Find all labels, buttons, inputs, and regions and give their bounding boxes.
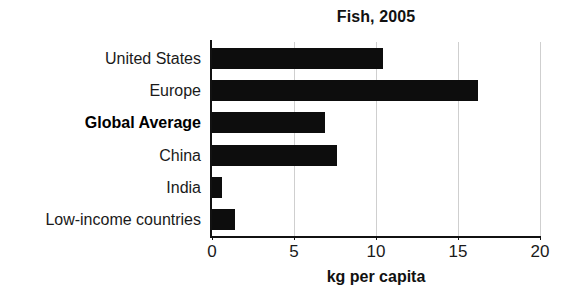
x-tick-mark-15 xyxy=(458,236,459,240)
x-axis-tick-labels: 05101520 xyxy=(0,242,570,264)
x-tick-mark-10 xyxy=(376,236,377,240)
y-label-europe: Europe xyxy=(149,80,201,101)
y-label-china: China xyxy=(159,145,201,166)
bar-low-income-countries xyxy=(212,209,235,230)
bar-row xyxy=(212,177,540,198)
y-label-india: India xyxy=(166,177,201,198)
x-tick-label-10: 10 xyxy=(356,242,396,262)
bar-row xyxy=(212,209,540,230)
bar-global-average xyxy=(212,112,325,133)
bar-europe xyxy=(212,80,478,101)
x-tick-label-15: 15 xyxy=(438,242,478,262)
gridline-5 xyxy=(294,42,295,236)
bar-row xyxy=(212,80,540,101)
bar-chart-figure: Fish, 2005 United StatesEuropeGlobal Ave… xyxy=(0,0,570,299)
plot-area xyxy=(212,42,540,236)
gridline-15 xyxy=(458,42,459,236)
y-label-global-average: Global Average xyxy=(85,112,201,133)
x-tick-label-5: 5 xyxy=(274,242,314,262)
y-axis-category-labels: United StatesEuropeGlobal AverageChinaIn… xyxy=(0,42,205,236)
x-tick-mark-20 xyxy=(540,236,541,240)
bar-row xyxy=(212,112,540,133)
x-tick-label-0: 0 xyxy=(192,242,232,262)
x-tick-mark-0 xyxy=(212,236,213,240)
x-axis-title: kg per capita xyxy=(212,268,540,286)
y-label-united-states: United States xyxy=(105,48,201,69)
gridline-20 xyxy=(540,42,541,236)
bar-india xyxy=(212,177,222,198)
x-tick-mark-5 xyxy=(294,236,295,240)
bar-row xyxy=(212,48,540,69)
x-tick-label-20: 20 xyxy=(520,242,560,262)
gridline-10 xyxy=(376,42,377,236)
y-label-low-income-countries: Low-income countries xyxy=(45,209,201,230)
bar-united-states xyxy=(212,48,383,69)
chart-title: Fish, 2005 xyxy=(212,8,540,26)
bar-china xyxy=(212,145,337,166)
bar-row xyxy=(212,145,540,166)
